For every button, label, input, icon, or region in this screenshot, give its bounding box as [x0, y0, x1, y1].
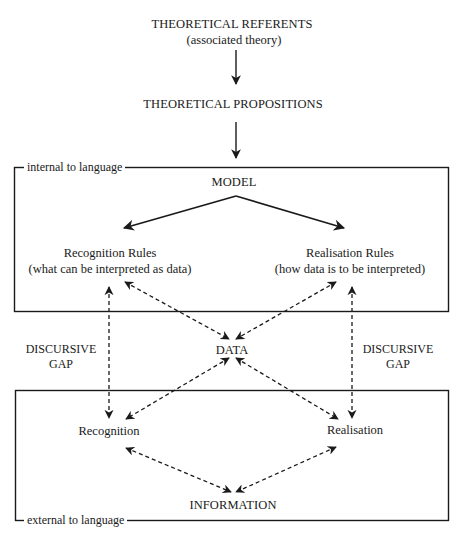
- data-label: DATA: [216, 343, 249, 358]
- right-gap-line2: GAP: [363, 357, 434, 372]
- dashed-arrow-recognition-rules-data: [125, 282, 229, 339]
- recognition-rules-label: Recognition Rules: [64, 246, 157, 261]
- internal-to-language-label: internal to language: [24, 160, 125, 174]
- left-discursive-gap-label: DISCURSIVE GAP: [26, 342, 97, 372]
- arrow-model-to-realisation-rules: [236, 196, 344, 228]
- theoretical-propositions-label: THEORETICAL PROPOSITIONS: [143, 97, 322, 112]
- arrow-model-to-recognition-rules: [124, 196, 236, 228]
- theoretical-referents-label: THEORETICAL REFERENTS: [151, 17, 312, 32]
- dashed-arrow-realisation-information: [236, 447, 336, 492]
- model-label: MODEL: [212, 175, 257, 190]
- dashed-arrow-realisation-rules-data: [236, 282, 336, 339]
- left-gap-line1: DISCURSIVE: [26, 342, 97, 357]
- external-to-language-label: external to language: [24, 513, 127, 527]
- information-label: INFORMATION: [189, 498, 276, 513]
- realisation-rules-sub-label: (how data is to be interpreted): [275, 262, 425, 277]
- right-gap-line1: DISCURSIVE: [363, 342, 434, 357]
- right-discursive-gap-label: DISCURSIVE GAP: [363, 342, 434, 372]
- recognition-rules-sub-label: (what can be interpreted as data): [29, 262, 192, 277]
- realisation-label: Realisation: [327, 423, 383, 438]
- dashed-arrow-data-realisation: [236, 358, 338, 419]
- associated-theory-label: (associated theory): [187, 33, 282, 48]
- realisation-rules-label: Realisation Rules: [306, 246, 394, 261]
- left-gap-line2: GAP: [26, 357, 97, 372]
- dashed-arrow-data-recognition: [126, 358, 229, 419]
- dashed-arrow-recognition-information: [126, 448, 231, 492]
- recognition-label: Recognition: [78, 424, 139, 439]
